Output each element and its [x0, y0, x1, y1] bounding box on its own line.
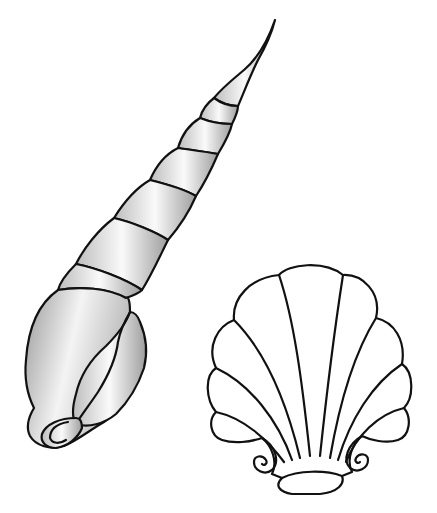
scallop-shell: [208, 265, 412, 494]
seashells-drawing: [0, 0, 437, 513]
illustration-canvas: Spiral turret shell Scallop shell: [0, 0, 437, 513]
turret-shell: [25, 20, 275, 448]
